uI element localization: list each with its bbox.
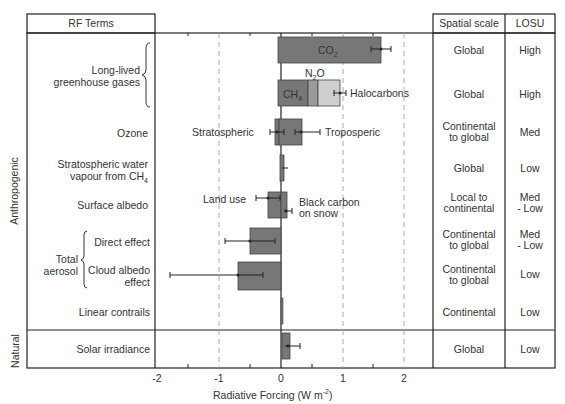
label-co2: CO2 (318, 44, 338, 61)
label-n2o-a: N (305, 67, 313, 79)
losu-r3: Med (505, 126, 555, 138)
x-axis-label-end: ) (329, 389, 333, 401)
term-ozone: Ozone (40, 127, 148, 139)
label-n2o-b: O (317, 67, 325, 79)
x-tick-neg1: -1 (204, 372, 234, 384)
x-tick-neg2: -2 (142, 372, 172, 384)
spatial-r2: Global (433, 88, 505, 100)
term-aerosol-line2: aerosol (30, 265, 78, 277)
losu-r4: Low (505, 162, 555, 174)
label-n2o: N2O (305, 67, 325, 84)
spatial-r7-line2: to global (433, 274, 505, 286)
spatial-r8: Continental (433, 306, 505, 318)
x-axis-label: Radiative Forcing (W m-2) (213, 386, 332, 401)
label-co2-text: CO (318, 44, 334, 56)
spatial-r1: Global (433, 44, 505, 56)
header-losu: LOSU (505, 17, 555, 29)
term-linear-contrails: Linear contrails (30, 306, 150, 318)
term-cloud-line2: effect (86, 276, 150, 288)
label-troposperic: Troposperic (325, 126, 380, 138)
term-swv-line1: Stratospheric water (30, 158, 148, 170)
term-surface-albedo: Surface albedo (30, 199, 148, 211)
losu-r9: Low (505, 343, 555, 355)
group-natural: Natural (9, 334, 21, 368)
spatial-r9: Global (433, 343, 505, 355)
label-land-use: Land use (203, 193, 246, 205)
term-swv-sub: 4 (144, 177, 148, 184)
label-ch4-text: CH (283, 88, 298, 100)
losu-r5-line2: - Low (505, 202, 555, 214)
group-anthropogenic: Anthropogenic (8, 157, 20, 225)
label-ch4: CH4 (283, 88, 302, 105)
term-direct-effect: Direct effect (88, 236, 150, 248)
term-swv-line2: vapour from CH4 (30, 170, 148, 187)
term-solar-irradiance: Solar irradiance (30, 343, 150, 355)
losu-r6-line2: - Low (505, 239, 555, 251)
x-tick-0: 0 (266, 372, 296, 384)
spatial-r4: Global (433, 162, 505, 174)
label-ch4-sub: 4 (298, 95, 302, 102)
x-tick-1: 1 (328, 372, 358, 384)
losu-r1: High (505, 44, 555, 56)
losu-r8: Low (505, 306, 555, 318)
term-aerosol-line1: Total (30, 253, 78, 265)
label-halocarbons: Halocarbons (350, 87, 409, 99)
term-llghg-line2: greenhouse gases (30, 76, 140, 88)
label-co2-sub: 2 (334, 51, 338, 58)
term-cloud-line1: Cloud albedo (86, 264, 150, 276)
label-stratospheric: Stratospheric (192, 126, 254, 138)
header-spatial-scale: Spatial scale (433, 17, 505, 29)
x-tick-2: 2 (389, 372, 419, 384)
spatial-r3-line2: to global (433, 131, 505, 143)
x-axis-label-text: Radiative Forcing (W m (213, 389, 323, 401)
spatial-r5-line2: continental (433, 202, 505, 214)
losu-r7: Low (505, 268, 555, 280)
term-swv-text: vapour from CH (70, 170, 144, 182)
label-bc-line2: on snow (299, 207, 338, 219)
term-llghg-line1: Long-lived (40, 64, 140, 76)
header-rf-terms: RF Terms (27, 17, 155, 29)
spatial-r6-line2: to global (433, 239, 505, 251)
losu-r2: High (505, 88, 555, 100)
